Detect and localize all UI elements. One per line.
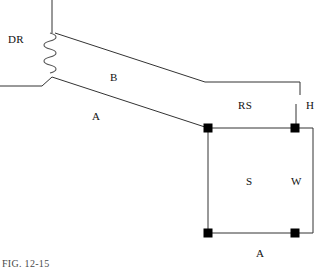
corner-marker-top-right [291, 124, 300, 133]
coil-spring-dr [44, 33, 56, 73]
corner-marker-bottom-left [204, 229, 213, 238]
label-b: B [110, 72, 118, 83]
corner-marker-top-left [204, 124, 213, 133]
label-a-upper: A [92, 111, 100, 122]
label-rs: RS [238, 100, 252, 111]
diagram-canvas [0, 0, 328, 269]
label-w: W [291, 176, 302, 187]
label-h: H [306, 100, 314, 111]
label-s: S [246, 176, 253, 187]
figure-caption: FIG. 12-15 [2, 259, 49, 269]
figure-container: DR B A RS H S W A FIG. 12-15 [0, 0, 328, 269]
conductor-b-line [55, 33, 205, 82]
conductor-a-line [52, 77, 208, 128]
corner-marker-bottom-right [291, 229, 300, 238]
label-dr: DR [8, 34, 24, 45]
label-a-lower: A [256, 248, 264, 259]
ground-lead-bend [42, 77, 52, 86]
